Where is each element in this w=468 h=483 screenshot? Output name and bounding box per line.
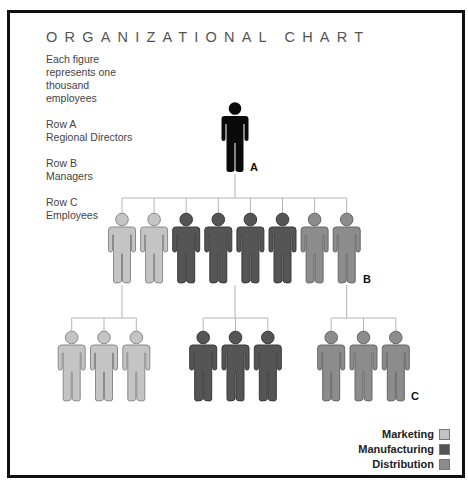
person-head — [244, 213, 257, 226]
manager-figure-distribution — [333, 213, 360, 283]
person-head — [130, 331, 143, 344]
person-body — [58, 345, 85, 401]
person-head — [262, 331, 275, 344]
org-chart: A B C — [0, 0, 468, 483]
person-body — [237, 227, 264, 283]
employee-figure-marketing — [91, 331, 118, 401]
person-head — [390, 331, 403, 344]
person-body — [141, 227, 168, 283]
employee-figure-marketing — [58, 331, 85, 401]
employee-figure-marketing — [123, 331, 150, 401]
person-head — [308, 213, 321, 226]
person-head — [116, 213, 129, 226]
person-head — [357, 331, 370, 344]
person-body — [222, 345, 249, 401]
employee-figure-manufacturing — [222, 331, 249, 401]
person-body — [382, 345, 409, 401]
person-head — [340, 213, 353, 226]
person-head — [197, 331, 210, 344]
person-head — [65, 331, 78, 344]
person-body — [318, 345, 345, 401]
person-head — [229, 102, 242, 115]
director-figure — [222, 102, 249, 172]
person-body — [222, 116, 249, 172]
legend-item-marketing: Marketing — [382, 428, 450, 440]
person-body — [269, 227, 296, 283]
person-body — [91, 345, 118, 401]
manager-figure-manufacturing — [173, 213, 200, 283]
employee-figure-distribution — [350, 331, 377, 401]
employee-figure-distribution — [318, 331, 345, 401]
legend-label: Marketing — [382, 428, 434, 440]
row-a-label: A — [250, 161, 258, 173]
person-body — [109, 227, 136, 283]
person-head — [148, 213, 161, 226]
person-head — [229, 331, 242, 344]
manager-figure-manufacturing — [269, 213, 296, 283]
row-c-label: C — [411, 390, 419, 402]
person-head — [212, 213, 225, 226]
legend-swatch — [439, 459, 450, 470]
legend-item-distribution: Distribution — [372, 458, 450, 470]
employee-figure-manufacturing — [254, 331, 281, 401]
person-body — [301, 227, 328, 283]
person-head — [276, 213, 289, 226]
person-body — [190, 345, 217, 401]
employee-figure-manufacturing — [190, 331, 217, 401]
legend-swatch — [439, 444, 450, 455]
manager-figure-marketing — [141, 213, 168, 283]
person-head — [180, 213, 193, 226]
manager-figure-distribution — [301, 213, 328, 283]
row-b-label: B — [363, 273, 371, 285]
person-head — [325, 331, 338, 344]
legend-swatch — [439, 429, 450, 440]
person-body — [173, 227, 200, 283]
person-body — [333, 227, 360, 283]
manager-figure-marketing — [109, 213, 136, 283]
legend-item-manufacturing: Manufacturing — [358, 443, 450, 455]
person-body — [205, 227, 232, 283]
manager-figure-manufacturing — [237, 213, 264, 283]
person-head — [98, 331, 111, 344]
figures — [58, 102, 409, 401]
employee-figure-distribution — [382, 331, 409, 401]
person-body — [350, 345, 377, 401]
person-body — [254, 345, 281, 401]
legend-label: Distribution — [372, 458, 434, 470]
person-body — [123, 345, 150, 401]
legend-label: Manufacturing — [358, 443, 434, 455]
manager-figure-manufacturing — [205, 213, 232, 283]
